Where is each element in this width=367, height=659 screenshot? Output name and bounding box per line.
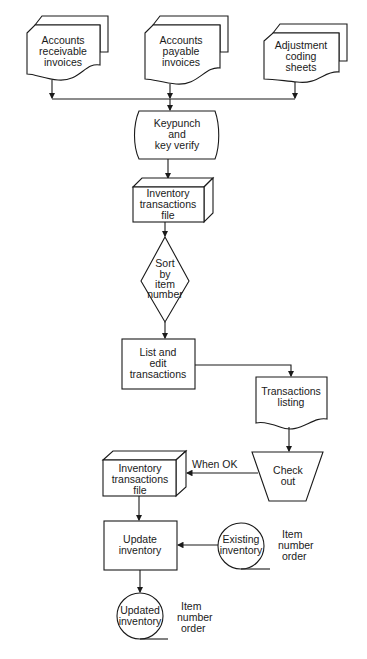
keypunch-line-3: key verify: [155, 139, 200, 151]
node-accounts-receivable-invoices: Accounts receivable invoices: [27, 16, 108, 80]
existing-line-2: inventory: [220, 544, 263, 556]
node-list-edit: List and edit transactions: [122, 339, 195, 389]
svg-text:order: order: [181, 622, 206, 634]
node-keypunch: Keypunch and key verify: [135, 111, 219, 159]
node-accounts-payable-invoices: Accounts payable invoices: [145, 16, 228, 84]
annotation-existing-order: Item number order: [278, 528, 314, 562]
node-adjustment-coding-sheets: Adjustment coding sheets: [264, 24, 347, 82]
node-sort: Sort by item number: [141, 237, 189, 322]
file2-line-3: file: [133, 484, 147, 496]
update-line-2: inventory: [119, 544, 162, 556]
merge-connectors: [52, 80, 295, 110]
node-updated-inventory: Updated inventory: [117, 593, 168, 639]
when-ok-label: When OK: [192, 458, 238, 470]
node-inventory-transactions-file-1: Inventory transactions file: [133, 178, 213, 222]
checkout-line-2: out: [281, 475, 296, 487]
ar-line-3: invoices: [44, 56, 82, 68]
sort-line-4: number: [147, 288, 183, 300]
node-check-out: Check out: [252, 452, 323, 501]
list-line-3: transactions: [130, 368, 187, 380]
ap-line-3: invoices: [162, 56, 200, 68]
node-inventory-transactions-file-2: Inventory transactions file: [103, 451, 186, 496]
node-existing-inventory: Existing inventory: [218, 523, 270, 569]
listing-line-2: listing: [278, 396, 305, 408]
file1-line-3: file: [161, 209, 175, 221]
node-update-inventory: Update inventory: [104, 521, 177, 570]
updated-line-2: inventory: [119, 615, 162, 627]
node-transactions-listing: Transactions listing: [256, 377, 327, 429]
svg-text:order: order: [282, 550, 307, 562]
annotation-updated-order: Item number order: [177, 600, 213, 634]
adj-line-3: sheets: [286, 61, 317, 73]
edge-list-listing: [195, 365, 291, 376]
inventory-flowchart: Accounts receivable invoices Accounts pa…: [0, 0, 367, 659]
